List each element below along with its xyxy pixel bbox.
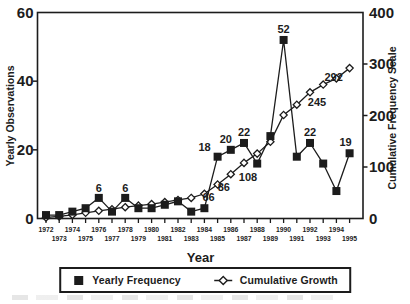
x-axis-tick-label: 1990 [276,226,291,233]
yearly-frequency-point-label: 22 [304,126,316,138]
cumulative-growth-point-label: 86 [218,181,230,193]
yearly-frequency-point [306,139,314,147]
x-axis-tick-label: 1984 [197,226,212,233]
x-axis-tick-label: 1982 [170,226,185,233]
yearly-frequency-point [332,187,340,195]
filled-square-marker-icon [72,274,85,287]
cumulative-growth-point-label: 245 [308,96,326,108]
yearly-frequency-point [319,160,327,168]
x-axis-tick-label: 1985 [210,235,225,242]
cumulative-growth-point [122,204,129,211]
legend-label-cumulative-growth: Cumulative Growth [240,274,338,286]
yearly-frequency-point [187,208,195,216]
x-axis-tick-label: 1993 [316,235,331,242]
yearly-frequency-point-label: 52 [277,23,289,35]
right-axis-tick-label: 400 [369,4,394,21]
legend-item-cumulative-growth: Cumulative Growth [213,274,338,287]
yearly-frequency-point [42,211,50,219]
yearly-frequency-point [68,208,76,216]
chart-svg: 0204060010020030040019721973197419751976… [0,0,410,266]
yearly-frequency-point [266,132,274,140]
x-axis-tick-label: 1989 [263,235,278,242]
x-axis-title: Year [187,250,214,265]
legend-item-yearly-frequency: Yearly Frequency [72,274,181,287]
yearly-frequency-point [174,197,182,205]
right-axis-title: Cumulative Frequency Scale [386,46,398,189]
yearly-frequency-point [293,153,301,161]
yearly-frequency-point [346,149,354,157]
legend: Yearly Frequency Cumulative Growth [59,267,351,293]
yearly-frequency-point [121,194,129,202]
x-axis-tick-label: 1994 [329,226,344,233]
cropped-caption-remnant [12,295,342,300]
yearly-frequency-point [82,204,90,212]
cumulative-growth-point [188,194,195,201]
cumulative-growth-point [95,207,102,214]
plot-frame [38,13,364,219]
yearly-frequency-point-label: 6 [122,182,128,194]
x-axis-tick-label: 1976 [91,226,106,233]
x-axis-tick-label: 1973 [52,235,67,242]
x-axis-tick-label: 1995 [342,235,357,242]
x-axis-tick-label: 1979 [131,235,146,242]
yearly-frequency-point-label: 18 [198,141,210,153]
x-axis-tick-label: 1983 [184,235,199,242]
yearly-frequency-point [95,194,103,202]
x-axis-tick-label: 1981 [157,235,172,242]
left-axis-tick-label: 40 [17,72,34,89]
yearly-frequency-point [214,153,222,161]
open-diamond-marker-icon [213,274,233,287]
figure: 0204060010020030040019721973197419751976… [0,0,410,304]
x-axis-tick-label: 1977 [104,235,119,242]
left-axis-tick-label: 0 [25,210,33,227]
x-axis-tick-label: 1978 [118,226,133,233]
yearly-frequency-point [227,146,235,154]
yearly-frequency-point [108,208,116,216]
yearly-frequency-point-label: 20 [220,133,232,145]
left-axis-tick-label: 20 [17,141,34,158]
yearly-frequency-point-label: 19 [339,136,351,148]
yearly-frequency-point [253,160,261,168]
x-axis-tick-label: 1975 [78,235,93,242]
yearly-frequency-point [240,139,248,147]
cumulative-growth-point-label: 108 [239,171,257,183]
x-axis-tick-label: 1988 [250,226,265,233]
x-axis-tick-label: 1992 [302,226,317,233]
x-axis-tick-label: 1974 [65,226,80,233]
x-axis-tick-label: 1991 [289,235,304,242]
x-axis-tick-label: 1986 [223,226,238,233]
yearly-frequency-point-label: 22 [238,126,250,138]
legend-label-yearly-frequency: Yearly Frequency [92,274,181,286]
yearly-frequency-point [200,204,208,212]
x-axis-tick-label: 1987 [236,235,251,242]
cumulative-growth-point-label: 292 [324,71,342,83]
right-axis-tick-label: 0 [369,210,377,227]
left-axis-title: Yearly Observations [4,65,16,166]
yearly-frequency-point-label: 6 [96,182,102,194]
yearly-frequency-point [148,204,156,212]
x-axis-tick-label: 1972 [38,226,53,233]
yearly-frequency-point [161,201,169,209]
yearly-frequency-point [55,211,63,219]
yearly-frequency-point [134,204,142,212]
x-axis-tick-label: 1980 [144,226,159,233]
yearly-frequency-point [280,36,288,44]
left-axis-tick-label: 60 [17,4,34,21]
